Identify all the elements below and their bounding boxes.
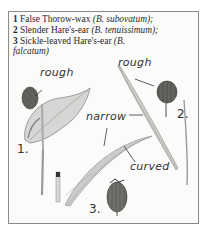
figure-number-3: 3. xyxy=(89,202,100,216)
label-narrow: narrow xyxy=(86,110,126,123)
label-rough-plant-1: rough xyxy=(40,66,74,79)
figure-number-2: 2. xyxy=(177,107,188,121)
label-rough-plant-2: rough xyxy=(118,56,152,69)
label-curved: curved xyxy=(130,160,170,173)
figure-number-1: 1. xyxy=(17,142,28,156)
